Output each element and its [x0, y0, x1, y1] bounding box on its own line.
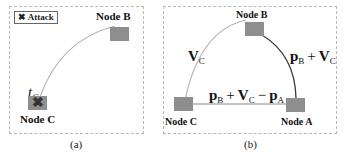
attack-x-icon: ✖ — [32, 96, 44, 110]
panel-b-node-b-label: Node B — [236, 9, 267, 20]
panel-b-node-c-label: Node C — [165, 116, 197, 127]
panel-a-node-c-label: Node C — [20, 113, 55, 125]
panel-b-edge-cb-label: VC — [188, 48, 205, 66]
attack-legend: ✖ Attack — [14, 11, 58, 24]
panel-a-node-b — [110, 27, 129, 41]
panel-b-node-c — [174, 97, 193, 111]
panel-b-caption: (b) — [244, 138, 257, 150]
panel-b-edge-ba-label: pB+VC — [290, 48, 336, 66]
panel-a-node-c: ✖ — [28, 96, 47, 110]
panel-a-edge-c-b — [40, 26, 115, 97]
panel-a-node-b-label: Node B — [96, 10, 131, 22]
panel-b-edge-ca-label: pB+VC−pA — [209, 87, 284, 105]
attack-legend-label: Attack — [28, 12, 54, 22]
panel-b-node-a — [286, 98, 305, 112]
x-mark-icon: ✖ — [18, 12, 26, 22]
panel-b-node-b — [245, 22, 264, 36]
panel-a-caption: (a) — [70, 138, 82, 150]
panel-b-node-a-label: Node A — [281, 116, 312, 127]
